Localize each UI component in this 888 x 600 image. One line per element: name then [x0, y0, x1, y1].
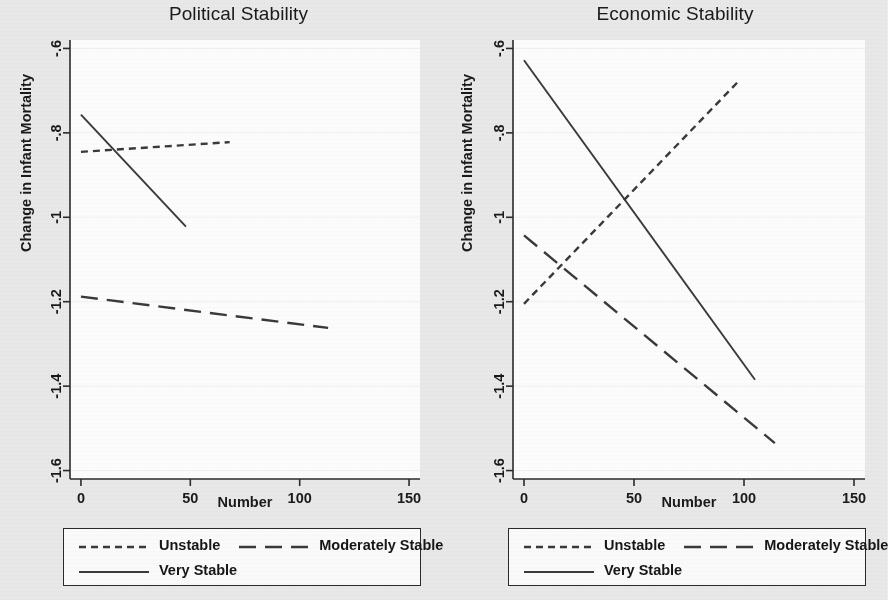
legend-label: Moderately Stable: [319, 537, 443, 553]
legend-row: Unstable Moderately Stable: [64, 532, 420, 558]
y-tick-label: -.6: [491, 40, 507, 57]
legend-swatch-dotted-icon: [523, 539, 595, 551]
panel-economic-stability: Economic Stability Change in Infant Mort…: [443, 0, 887, 520]
legend-economic: Unstable Moderately Stable Very Stable: [508, 528, 866, 586]
legend-row: Very Stable: [509, 557, 865, 583]
legend-entry-very-stable: Very Stable: [78, 562, 237, 578]
legend-swatch-solid-icon: [523, 564, 595, 576]
legend-entry-moderately-stable: Moderately Stable: [683, 537, 888, 553]
legend-swatch-dotted-icon: [78, 539, 150, 551]
legend-row: Very Stable: [64, 557, 420, 583]
plot-area-political: -.6-.8-1-1.2-1.4-1.6050100150: [0, 0, 443, 520]
plot-area-economic: -.6-.8-1-1.2-1.4-1.6050100150: [443, 0, 887, 520]
legend-swatch-dashed-icon: [683, 539, 755, 551]
legend-label: Very Stable: [604, 562, 682, 578]
y-tick-label: -.8: [491, 124, 507, 141]
legend-label: Unstable: [604, 537, 665, 553]
y-tick-label: -.8: [48, 124, 64, 141]
legend-row: Unstable Moderately Stable: [509, 532, 865, 558]
legend-swatch-solid-icon: [78, 564, 150, 576]
legend-entry-unstable: Unstable: [78, 537, 220, 553]
legend-swatch-dashed-icon: [238, 539, 310, 551]
legend-label: Very Stable: [159, 562, 237, 578]
y-tick-label: -1.4: [48, 374, 64, 399]
y-tick-label: -1: [491, 211, 507, 224]
y-tick-label: -.6: [48, 40, 64, 57]
panel-political-stability: Political Stability Change in Infant Mor…: [0, 0, 443, 520]
y-tick-label: -1.4: [491, 374, 507, 399]
legend-political: Unstable Moderately Stable Very Stable: [63, 528, 421, 586]
y-tick-label: -1: [48, 211, 64, 224]
legend-entry-moderately-stable: Moderately Stable: [238, 537, 443, 553]
x-axis-label: Number: [513, 494, 865, 510]
legend-label: Moderately Stable: [764, 537, 888, 553]
y-tick-label: -1.6: [48, 458, 64, 483]
x-axis-label: Number: [70, 494, 420, 510]
y-tick-label: -1.2: [48, 289, 64, 314]
y-tick-label: -1.2: [491, 289, 507, 314]
legend-label: Unstable: [159, 537, 220, 553]
legend-entry-very-stable: Very Stable: [523, 562, 682, 578]
legend-entry-unstable: Unstable: [523, 537, 665, 553]
y-tick-label: -1.6: [491, 458, 507, 483]
